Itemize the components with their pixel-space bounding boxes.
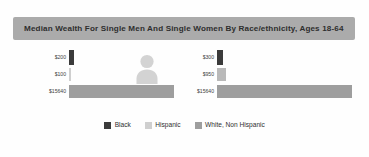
bar-value-label: $300	[176, 55, 217, 60]
chart-legend: Black Hispanic White, Non Hispanic	[0, 122, 369, 129]
chart-title-band: Median Wealth For Single Men And Single …	[13, 17, 355, 40]
legend-label: White, Non Hispanic	[205, 122, 265, 129]
bar-white-non-hispanic[interactable]	[217, 85, 352, 98]
bar-black[interactable]	[217, 50, 223, 65]
bar-row: $300	[176, 51, 223, 64]
page-title: Median Wealth For Single Men And Single …	[13, 24, 344, 33]
panel-single-women: $300 $950 $15640	[176, 47, 356, 113]
bar-value-label: $100	[28, 72, 69, 77]
bar-hispanic[interactable]	[69, 68, 71, 81]
black-swatch	[104, 122, 111, 129]
plot-area: $200 $100 $15640 $300 $	[0, 47, 369, 113]
chart-root: Median Wealth For Single Men And Single …	[0, 0, 369, 157]
bar-value-label: $15640	[176, 89, 217, 94]
bar-row: $200	[28, 51, 74, 64]
bar-value-label: $950	[176, 72, 217, 77]
bar-hispanic[interactable]	[217, 68, 226, 81]
legend-item-white-non-hispanic[interactable]: White, Non Hispanic	[195, 122, 265, 129]
legend-item-hispanic[interactable]: Hispanic	[145, 122, 181, 129]
bar-black[interactable]	[69, 50, 74, 65]
legend-label: Black	[115, 122, 131, 129]
legend-label: Hispanic	[155, 122, 180, 129]
person-icon	[130, 50, 164, 84]
bar-value-label: $15640	[28, 89, 69, 94]
bar-white-non-hispanic[interactable]	[69, 85, 174, 98]
white-non-hispanic-swatch	[195, 122, 202, 129]
bar-row: $950	[176, 68, 226, 81]
bar-row: $15640	[28, 85, 174, 98]
panel-single-men: $200 $100 $15640	[28, 47, 176, 113]
bar-row: $100	[28, 68, 71, 81]
bar-value-label: $200	[28, 55, 69, 60]
legend-item-black[interactable]: Black	[104, 122, 131, 129]
bar-row: $15640	[176, 85, 352, 98]
hispanic-swatch	[145, 122, 152, 129]
